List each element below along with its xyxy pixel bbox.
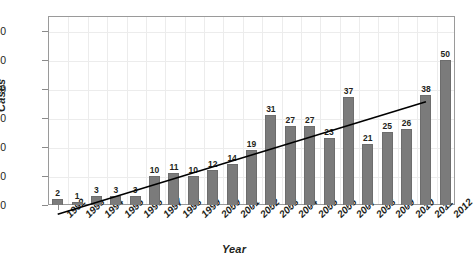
- bar-value-label: 21: [363, 133, 372, 143]
- x-tick-mark: [290, 205, 291, 210]
- bar-value-label: 3: [94, 185, 99, 195]
- bar-value-label: 12: [208, 159, 217, 169]
- y-tick-mark: [42, 176, 48, 177]
- bar: [91, 196, 102, 205]
- gridline-vertical: [68, 17, 69, 204]
- gridline-vertical: [165, 17, 166, 204]
- gridline-horizontal: [49, 61, 454, 62]
- bar: [52, 199, 63, 205]
- x-tick-mark: [116, 205, 117, 210]
- bar-value-label: 27: [305, 115, 314, 125]
- bar-value-label: 10: [150, 165, 159, 175]
- gridline-vertical: [378, 17, 379, 204]
- bar: [72, 202, 83, 205]
- x-tick-mark: [174, 205, 175, 210]
- gridline-horizontal: [49, 32, 454, 33]
- x-tick-mark: [213, 205, 214, 210]
- bar: [149, 176, 160, 205]
- y-tick-label: 20: [0, 141, 6, 153]
- y-tick-mark: [42, 147, 48, 148]
- bar: [440, 60, 451, 205]
- bar: [362, 144, 373, 205]
- bar: [285, 126, 296, 205]
- x-tick-mark: [407, 205, 408, 210]
- x-tick-mark: [387, 205, 388, 210]
- y-tick-label: 10: [0, 170, 6, 182]
- x-tick-mark: [252, 205, 253, 210]
- bar-value-label: 19: [247, 139, 256, 149]
- x-tick-mark: [77, 205, 78, 210]
- x-tick-mark: [445, 205, 446, 210]
- x-axis-title: Year: [0, 243, 468, 255]
- x-tick-mark: [193, 205, 194, 210]
- gridline-vertical: [437, 17, 438, 204]
- bar-value-label: 27: [286, 115, 295, 125]
- x-tick-mark: [426, 205, 427, 210]
- gridline-vertical: [146, 17, 147, 204]
- gridline-vertical: [223, 17, 224, 204]
- y-tick-mark: [42, 31, 48, 32]
- x-tick-mark: [232, 205, 233, 210]
- gridline-vertical: [127, 17, 128, 204]
- bar: [324, 138, 335, 205]
- bar: [227, 164, 238, 205]
- bar-value-label: 37: [344, 86, 353, 96]
- bar: [420, 95, 431, 205]
- x-tick-mark: [329, 205, 330, 210]
- x-tick-mark: [310, 205, 311, 210]
- y-tick-label: 50: [0, 54, 6, 66]
- bar-value-label: 25: [382, 121, 391, 131]
- bar: [168, 173, 179, 205]
- x-tick-mark: [348, 205, 349, 210]
- bar-value-label: 23: [324, 127, 333, 137]
- gridline-vertical: [320, 17, 321, 204]
- x-tick-mark: [96, 205, 97, 210]
- x-tick-mark: [58, 205, 59, 210]
- y-tick-label: 0: [0, 199, 6, 211]
- x-tick-mark: [368, 205, 369, 210]
- y-tick-mark: [42, 205, 48, 206]
- bar: [382, 132, 393, 205]
- bar-value-label: 11: [169, 162, 178, 172]
- bar-value-label: 3: [113, 185, 118, 195]
- y-tick-mark: [42, 89, 48, 90]
- x-tick-mark: [271, 205, 272, 210]
- bar: [343, 97, 354, 205]
- y-tick-label: 30: [0, 112, 6, 124]
- gridline-vertical: [417, 17, 418, 204]
- bar-value-label: 3: [133, 185, 138, 195]
- gridline-vertical: [282, 17, 283, 204]
- y-tick-label: 40: [0, 83, 6, 95]
- bar-value-label: 10: [189, 165, 198, 175]
- bar: [246, 150, 257, 205]
- gridline-vertical: [107, 17, 108, 204]
- bar: [110, 196, 121, 205]
- x-tick-mark: [135, 205, 136, 210]
- bar-value-label: 31: [266, 104, 275, 114]
- gridline-horizontal: [49, 119, 454, 120]
- gridline-horizontal: [49, 90, 454, 91]
- bar: [401, 129, 412, 205]
- gridline-vertical: [359, 17, 360, 204]
- bar: [188, 176, 199, 205]
- bar: [207, 170, 218, 205]
- gridline-vertical: [398, 17, 399, 204]
- y-tick-label: 60: [0, 25, 6, 37]
- gridline-vertical: [204, 17, 205, 204]
- bar-value-label: 1: [75, 191, 80, 201]
- bar: [265, 115, 276, 205]
- bar-value-label: 50: [441, 49, 450, 59]
- y-tick-mark: [42, 60, 48, 61]
- gridline-vertical: [185, 17, 186, 204]
- x-tick-mark: [155, 205, 156, 210]
- bar-value-label: 2: [55, 188, 60, 198]
- gridline-vertical: [243, 17, 244, 204]
- bar-value-label: 14: [227, 153, 236, 163]
- bar-value-label: 38: [421, 84, 430, 94]
- gridline-vertical: [88, 17, 89, 204]
- gridline-vertical: [262, 17, 263, 204]
- bar: [304, 126, 315, 205]
- gridline-vertical: [301, 17, 302, 204]
- y-tick-mark: [42, 118, 48, 119]
